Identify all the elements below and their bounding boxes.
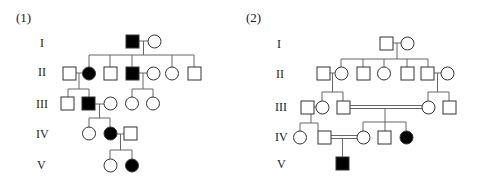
individual-III-3-male xyxy=(337,101,350,114)
individual-II-4-affected-male xyxy=(126,67,139,80)
individual-III-4-female xyxy=(422,101,435,114)
individual-II-7-female xyxy=(441,67,454,80)
individual-II-1-male xyxy=(63,67,76,80)
generation-label-V: V xyxy=(277,157,286,171)
individual-IV-3-female xyxy=(357,131,370,144)
individual-II-4-female xyxy=(378,67,391,80)
individual-III-3-female xyxy=(104,97,117,110)
individual-IV-2-affected-female xyxy=(104,127,117,140)
individual-II-3-male xyxy=(357,67,370,80)
pedigree-figure: (1) I II III IV V xyxy=(0,0,479,177)
generation-label-I: I xyxy=(277,37,281,51)
individual-II-3-male xyxy=(104,67,117,80)
panel-2-label: (2) xyxy=(246,10,261,25)
individual-III-5-female xyxy=(147,97,160,110)
individual-II-7-male xyxy=(188,67,201,80)
individual-IV-5-affected-female xyxy=(400,131,413,144)
individual-II-2-affected-female xyxy=(83,67,96,80)
generation-label-III: III xyxy=(36,97,48,111)
individual-IV-3-male xyxy=(124,127,137,140)
generation-label-IV: IV xyxy=(36,127,49,141)
individual-III-5-male xyxy=(443,101,456,114)
individual-II-2-female xyxy=(335,67,348,80)
generation-label-II: II xyxy=(38,65,46,79)
individual-V-1-female xyxy=(104,159,117,172)
individual-IV-2-male xyxy=(318,131,331,144)
individual-I-2-female xyxy=(401,37,414,50)
individual-IV-1-female xyxy=(83,127,96,140)
generation-label-I: I xyxy=(40,36,44,50)
generation-label-II: II xyxy=(276,67,284,81)
generation-label-IV: IV xyxy=(275,130,288,144)
individual-I-2-female xyxy=(148,35,161,48)
individual-V-2-affected-female xyxy=(126,159,139,172)
individual-III-1-male xyxy=(301,101,314,114)
panel-2-individuals xyxy=(294,37,457,170)
individual-II-1-male xyxy=(317,67,330,80)
individual-II-5-male xyxy=(401,67,414,80)
panel-1-individuals xyxy=(61,35,201,172)
individual-I-1-male xyxy=(380,37,393,50)
individual-I-1-affected-male xyxy=(126,35,139,48)
generation-label-III: III xyxy=(275,100,287,114)
individual-III-2-affected-male xyxy=(82,97,95,110)
individual-III-2-female xyxy=(316,101,329,114)
generation-label-V: V xyxy=(37,158,46,172)
individual-IV-4-male xyxy=(378,131,391,144)
pedigree-panel-1: (1) I II III IV V xyxy=(16,10,201,172)
individual-II-6-male xyxy=(421,67,434,80)
panel-1-label: (1) xyxy=(16,10,31,25)
individual-V-1-affected-male xyxy=(336,157,349,170)
individual-III-1-male xyxy=(61,97,74,110)
individual-II-6-female xyxy=(166,67,179,80)
individual-III-4-female xyxy=(126,97,139,110)
pedigree-panel-2: (2) I II III IV V xyxy=(246,10,456,171)
individual-IV-1-female xyxy=(294,131,307,144)
individual-II-5-female xyxy=(147,67,160,80)
